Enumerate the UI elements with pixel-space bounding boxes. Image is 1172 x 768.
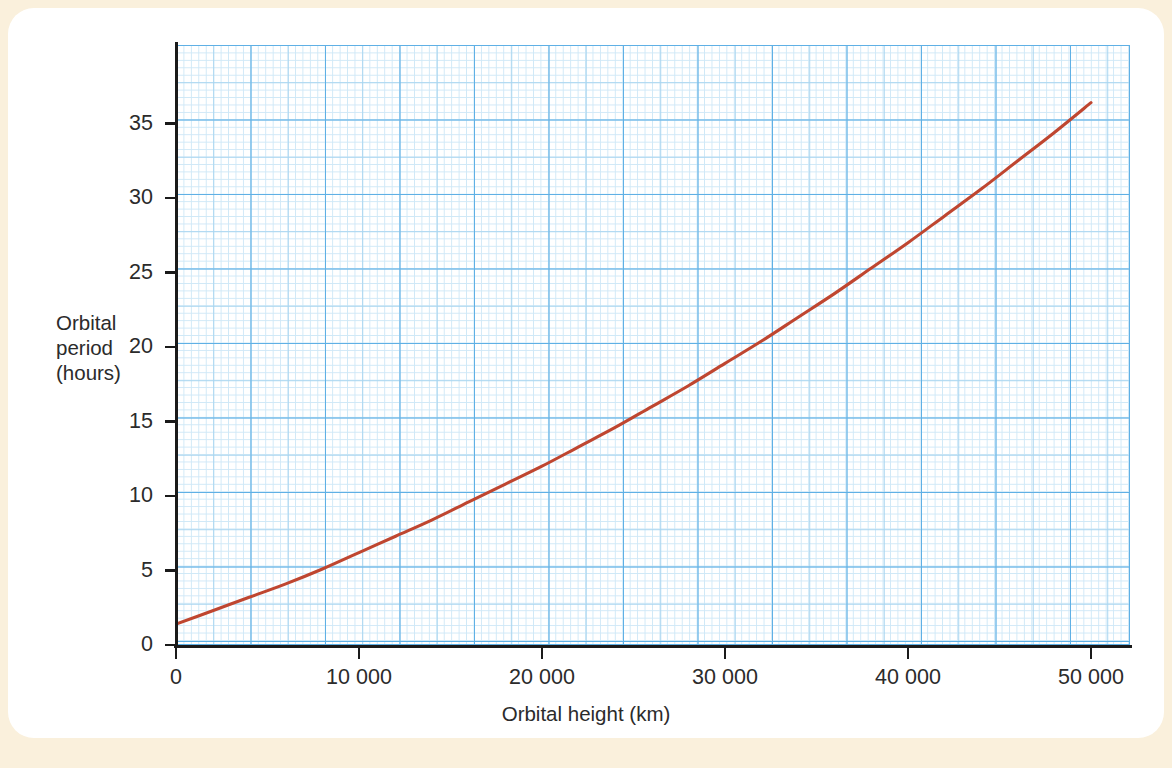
x-tick-label-30000: 30 000 — [692, 665, 758, 690]
y-axis-title: Orbital period (hours) — [56, 310, 166, 385]
orbital-period-curve — [176, 103, 1091, 625]
x-tick-30000 — [724, 648, 727, 659]
y-tick-5 — [165, 569, 176, 572]
x-tick-10000 — [358, 648, 361, 659]
x-tick-0 — [175, 648, 178, 659]
x-tick-50000 — [1090, 648, 1093, 659]
x-tick-label-0: 0 — [170, 665, 182, 690]
y-tick-label-15: 15 — [129, 409, 153, 434]
y-tick-label-5: 5 — [141, 558, 153, 583]
y-tick-label-0: 0 — [141, 632, 153, 657]
chart-page: 05101520253035 010 00020 00030 00040 000… — [0, 0, 1172, 768]
x-tick-label-10000: 10 000 — [326, 665, 392, 690]
x-tick-label-50000: 50 000 — [1058, 665, 1124, 690]
orbital-period-chart: 05101520253035 010 00020 00030 00040 000… — [0, 0, 1172, 768]
x-tick-40000 — [907, 648, 910, 659]
y-tick-label-25: 25 — [129, 260, 153, 285]
y-axis-title-line-3: (hours) — [56, 360, 166, 385]
y-tick-25 — [165, 271, 176, 274]
y-tick-15 — [165, 420, 176, 423]
y-tick-label-35: 35 — [129, 111, 153, 136]
x-tick-label-40000: 40 000 — [875, 665, 941, 690]
data-curve-layer — [176, 45, 1130, 645]
y-tick-20 — [165, 346, 176, 349]
y-axis-title-line-1: Orbital — [56, 310, 166, 335]
x-tick-label-20000: 20 000 — [509, 665, 575, 690]
y-tick-35 — [165, 122, 176, 125]
y-tick-0 — [165, 644, 176, 647]
y-axis-title-line-2: period — [56, 335, 166, 360]
y-tick-label-10: 10 — [129, 483, 153, 508]
x-axis-title: Orbital height (km) — [0, 702, 1172, 726]
plot-area — [176, 45, 1130, 645]
y-tick-label-30: 30 — [129, 185, 153, 210]
x-axis-line — [174, 645, 1132, 648]
y-tick-10 — [165, 495, 176, 498]
y-tick-30 — [165, 197, 176, 200]
x-tick-20000 — [541, 648, 544, 659]
